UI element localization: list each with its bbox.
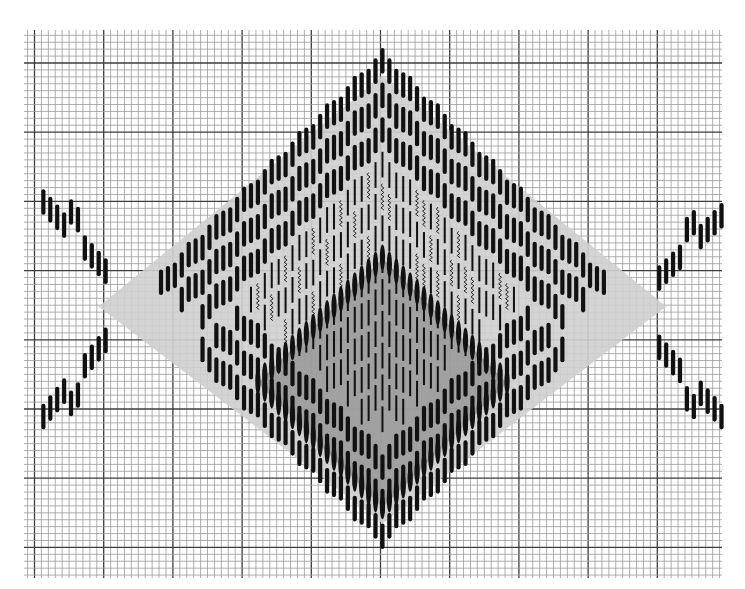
bargello-chart: [0, 0, 745, 589]
